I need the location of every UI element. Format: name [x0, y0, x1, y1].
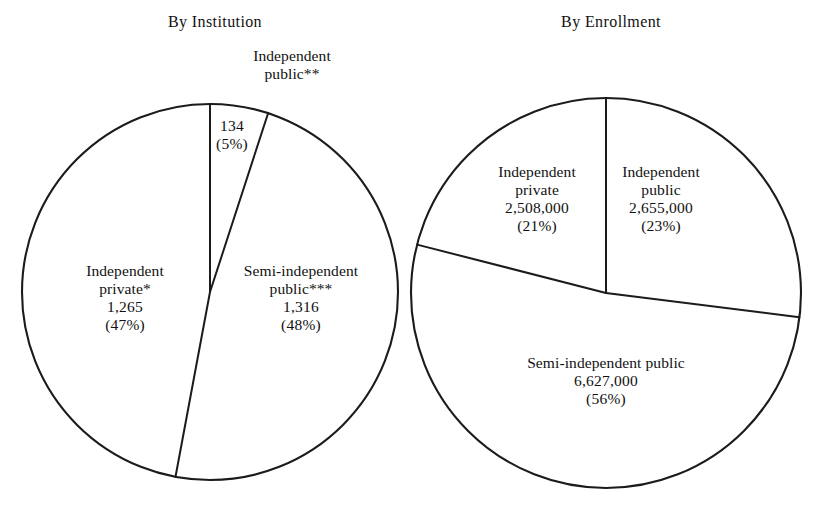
left-slice-name-line2-independent-private: private*: [86, 280, 164, 298]
left-external-label-line1: Independent: [253, 47, 331, 65]
left-slice-name-line2-semi-independent-public: public***: [244, 280, 358, 298]
left-slice-value-semi-independent-public: 1,316: [244, 298, 358, 316]
right-pie-divider-public-semi: [606, 293, 799, 317]
left-external-label-line2: public**: [253, 65, 331, 83]
left-slice-percent-independent-public: (5%): [216, 135, 248, 153]
right-slice-name-line2-independent-private: private: [498, 181, 576, 199]
right-slice-value-independent-public: 2,655,000: [622, 199, 700, 217]
right-slice-name-line2-independent-public: public: [622, 181, 700, 199]
right-chart-title: By Enrollment: [561, 13, 661, 31]
right-pie-group: [411, 98, 801, 488]
left-slice-label-independent-private: Independent private* 1,265 (47%): [86, 262, 164, 334]
right-slice-percent-independent-private: (21%): [498, 217, 576, 235]
pie-chart-figure: By Institution Independent public** 134 …: [0, 0, 818, 506]
right-slice-value-independent-private: 2,508,000: [498, 199, 576, 217]
right-slice-label-independent-public: Independent public 2,655,000 (23%): [622, 163, 700, 235]
right-slice-label-independent-private: Independent private 2,508,000 (21%): [498, 163, 576, 235]
left-slice-label-independent-public: 134 (5%): [216, 117, 248, 153]
right-slice-name-line1-independent-private: Independent: [498, 163, 576, 181]
left-pie-divider-semi-private: [176, 292, 211, 477]
right-slice-name-line1-independent-public: Independent: [622, 163, 700, 181]
left-chart-title: By Institution: [168, 13, 262, 31]
left-external-label-independent-public: Independent public**: [253, 47, 331, 83]
right-pie-divider-semi-private: [417, 245, 606, 293]
left-slice-value-independent-public: 134: [216, 117, 248, 135]
left-slice-name-line1-semi-independent-public: Semi-independent: [244, 262, 358, 280]
right-pie-outline: [411, 98, 801, 488]
left-slice-percent-independent-private: (47%): [86, 316, 164, 334]
right-slice-percent-independent-public: (23%): [622, 217, 700, 235]
right-slice-name-semi-independent-public: Semi-independent public: [527, 354, 685, 372]
right-slice-label-semi-independent-public: Semi-independent public 6,627,000 (56%): [527, 354, 685, 408]
left-slice-percent-semi-independent-public: (48%): [244, 316, 358, 334]
left-slice-label-semi-independent-public: Semi-independent public*** 1,316 (48%): [244, 262, 358, 334]
right-slice-value-semi-independent-public: 6,627,000: [527, 372, 685, 390]
right-slice-percent-semi-independent-public: (56%): [527, 390, 685, 408]
pie-charts-vector-layer: [0, 0, 818, 506]
left-slice-name-line1-independent-private: Independent: [86, 262, 164, 280]
left-slice-value-independent-private: 1,265: [86, 298, 164, 316]
